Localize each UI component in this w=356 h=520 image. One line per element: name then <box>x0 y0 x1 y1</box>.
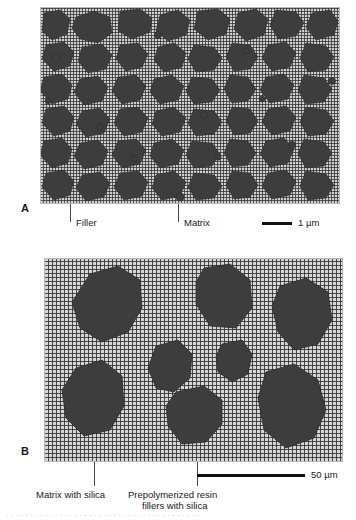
panel-b-filler-particles <box>44 258 343 462</box>
panel-a-leader-matrix <box>178 204 179 222</box>
panel-a-callout-filler: Filler <box>76 217 97 228</box>
panel-b-callout-fillers-line2: fillers with silica <box>128 500 207 511</box>
panel-b-callout-matrix: Matrix with silica <box>36 489 105 500</box>
panel-a-scale-bar: 1 µm <box>262 218 319 228</box>
panel-b-micrograph <box>44 258 343 462</box>
panel-a-scale-bar-label: 1 µm <box>298 218 319 228</box>
panel-b-letter: B <box>21 446 29 457</box>
panel-b-leader-matrix <box>94 462 95 486</box>
panel-a-micrograph <box>40 7 340 204</box>
panel-b-callout-fillers-line1: Prepolymerized resin <box>128 489 217 500</box>
panel-b-scale-bar-label: 50 µm <box>311 470 338 480</box>
panel-a-scale-bar-line <box>262 222 292 225</box>
panel-a-filler-particles <box>40 7 340 204</box>
panel-b-callout-fillers: Prepolymerized resin fillers with silica <box>128 489 248 511</box>
panel-b-scale-bar-line <box>197 474 305 477</box>
panel-a-letter: A <box>21 203 29 214</box>
panel-a-callout-matrix: Matrix <box>184 217 210 228</box>
panel-b-scale-bar: 50 µm <box>197 470 338 480</box>
panel-a-leader-filler <box>70 204 71 222</box>
cropped-caption-remnant: · · · · · · · · · · · · · · · · · · · · … <box>6 511 350 520</box>
figure-container: A Filler Matrix 1 µm <box>0 0 356 520</box>
